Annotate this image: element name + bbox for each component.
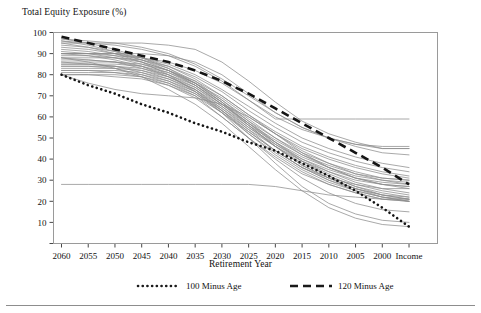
y-tick-label: 30 bbox=[38, 175, 48, 185]
x-tick-label: 2060 bbox=[53, 251, 72, 261]
y-axis-ticks: 102030405060708090100 bbox=[33, 28, 54, 244]
x-tick-label: 2025 bbox=[240, 251, 259, 261]
x-tick-label: 2055 bbox=[79, 251, 98, 261]
x-tick-label: 2040 bbox=[159, 251, 178, 261]
bottom-divider bbox=[6, 305, 475, 306]
glide-path-line bbox=[62, 54, 410, 147]
legend-item-label: 120 Minus Age bbox=[338, 281, 394, 291]
y-tick-label: 90 bbox=[38, 49, 48, 59]
x-tick-label: 2015 bbox=[293, 251, 312, 261]
y-tick-label: 60 bbox=[38, 112, 48, 122]
glide-path-line bbox=[62, 43, 410, 222]
glide-path-line bbox=[62, 58, 410, 201]
y-tick-label: 70 bbox=[38, 91, 48, 101]
glide-path-line bbox=[62, 43, 410, 149]
y-tick-label: 100 bbox=[33, 28, 47, 38]
x-tick-label: 2005 bbox=[347, 251, 366, 261]
glide-path-line bbox=[62, 68, 410, 180]
glide-path-line bbox=[62, 39, 410, 155]
x-tick-label: 2045 bbox=[133, 251, 152, 261]
x-tick-label: 2020 bbox=[266, 251, 285, 261]
x-tick-label: 2000 bbox=[373, 251, 392, 261]
reference-lines bbox=[62, 37, 410, 227]
x-axis-ticks: 2060205520502045204020352030202520202015… bbox=[53, 244, 423, 261]
chart-container: Total Equity Exposure (%) Retirement Yea… bbox=[0, 0, 481, 313]
y-tick-label: 10 bbox=[38, 218, 48, 228]
y-tick-label: 40 bbox=[38, 154, 48, 164]
legend-item-label: 100 Minus Age bbox=[186, 281, 242, 291]
glide-path-lines bbox=[62, 39, 410, 227]
glide-path-line bbox=[62, 66, 410, 201]
y-tick-label: 20 bbox=[38, 197, 48, 207]
x-tick-label: Income bbox=[396, 251, 423, 261]
glide-path-line bbox=[62, 51, 410, 201]
y-tick-label: 50 bbox=[38, 133, 48, 143]
x-tick-label: 2030 bbox=[213, 251, 232, 261]
chart-plot: 102030405060708090100 206020552050204520… bbox=[0, 0, 481, 313]
x-tick-label: 2010 bbox=[320, 251, 339, 261]
chart-legend: 100 Minus Age120 Minus Age bbox=[138, 281, 394, 291]
x-tick-label: 2035 bbox=[186, 251, 205, 261]
x-tick-label: 2050 bbox=[106, 251, 125, 261]
y-tick-label: 80 bbox=[38, 70, 48, 80]
